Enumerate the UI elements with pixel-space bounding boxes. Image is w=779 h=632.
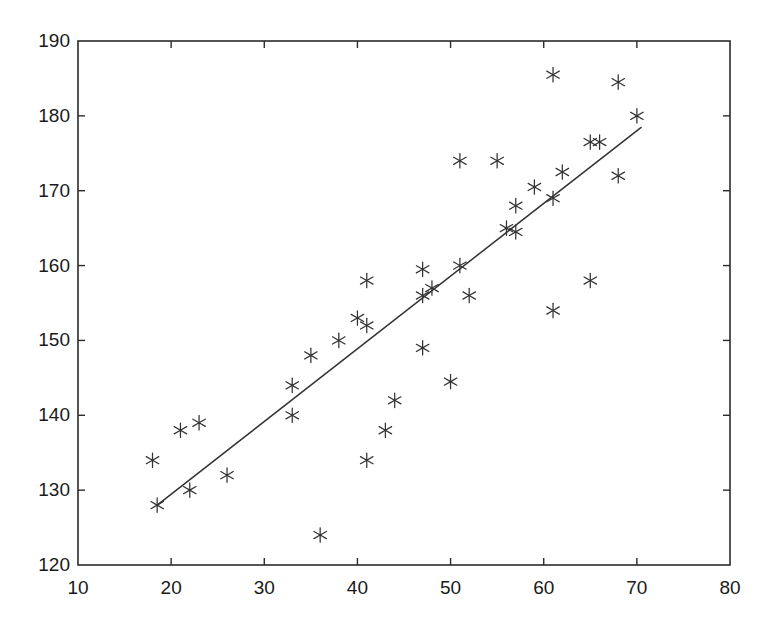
asterisk-marker-ray: [339, 340, 345, 344]
asterisk-marker-ray: [286, 382, 292, 386]
asterisk-marker-ray: [516, 206, 522, 210]
asterisk-marker-ray: [151, 502, 157, 506]
scatter-point: [379, 423, 391, 437]
asterisk-marker-ray: [460, 161, 466, 165]
scatter-point: [510, 198, 522, 212]
asterisk-marker-ray: [379, 430, 385, 434]
scatter-point: [612, 75, 624, 89]
x-axis-tick-label: 70: [626, 577, 647, 599]
asterisk-marker-ray: [333, 337, 339, 341]
scatter-point: [184, 483, 196, 497]
scatter-point: [361, 453, 373, 467]
asterisk-marker-ray: [361, 325, 367, 329]
asterisk-marker-ray: [320, 531, 326, 535]
asterisk-marker-ray: [333, 340, 339, 344]
asterisk-marker-ray: [553, 71, 559, 75]
x-axis-tick-label: 80: [719, 577, 740, 599]
asterisk-marker-ray: [491, 157, 497, 161]
asterisk-marker-ray: [292, 382, 298, 386]
asterisk-marker-ray: [292, 412, 298, 416]
asterisk-marker-ray: [590, 281, 596, 285]
scatter-point: [547, 67, 559, 81]
scatter-point: [361, 273, 373, 287]
plot-canvas: [0, 0, 779, 632]
y-axis-tick-label: 150: [12, 329, 70, 351]
asterisk-marker-ray: [367, 277, 373, 281]
asterisk-marker-ray: [199, 423, 205, 427]
scatter-series-observations: [146, 67, 643, 542]
scatter-point: [556, 165, 568, 179]
asterisk-marker-ray: [562, 172, 568, 176]
asterisk-marker-ray: [286, 385, 292, 389]
scatter-point: [631, 109, 643, 123]
asterisk-marker-ray: [637, 112, 643, 116]
asterisk-marker-ray: [395, 397, 401, 401]
asterisk-marker-ray: [510, 232, 516, 236]
asterisk-marker-ray: [491, 161, 497, 165]
asterisk-marker-ray: [416, 292, 422, 296]
asterisk-marker-ray: [584, 277, 590, 281]
asterisk-marker-ray: [516, 202, 522, 206]
asterisk-marker-ray: [444, 378, 450, 382]
asterisk-marker-ray: [444, 382, 450, 386]
asterisk-marker-ray: [454, 262, 460, 266]
scatter-plot-figure: 1201301401501601701801901020304050607080: [0, 0, 779, 632]
asterisk-marker-ray: [451, 382, 457, 386]
x-axis-tick-label: 50: [440, 577, 461, 599]
scatter-point: [491, 154, 503, 168]
plot-box-border: [78, 41, 730, 565]
asterisk-marker-ray: [534, 183, 540, 187]
asterisk-marker-ray: [367, 325, 373, 329]
asterisk-marker-ray: [292, 415, 298, 419]
scatter-point: [286, 378, 298, 392]
asterisk-marker-ray: [385, 427, 391, 431]
asterisk-marker-ray: [153, 457, 159, 461]
asterisk-marker-ray: [320, 535, 326, 539]
asterisk-marker-ray: [463, 296, 469, 300]
asterisk-marker-ray: [227, 475, 233, 479]
asterisk-marker-ray: [600, 142, 606, 146]
scatter-point: [193, 416, 205, 430]
scatter-point: [388, 393, 400, 407]
y-axis-tick-label: 120: [12, 554, 70, 576]
asterisk-marker-ray: [174, 427, 180, 431]
regression-line: [157, 127, 641, 505]
asterisk-marker-ray: [600, 138, 606, 142]
asterisk-marker-ray: [463, 292, 469, 296]
asterisk-marker-ray: [151, 505, 157, 509]
asterisk-marker-ray: [553, 310, 559, 314]
asterisk-marker-ray: [190, 487, 196, 491]
asterisk-marker-ray: [618, 172, 624, 176]
x-axis-tick-label: 30: [254, 577, 275, 599]
y-axis-tick-label: 130: [12, 479, 70, 501]
x-axis-tick-label: 20: [161, 577, 182, 599]
scatter-point: [286, 408, 298, 422]
asterisk-marker-ray: [180, 427, 186, 431]
asterisk-marker-ray: [612, 82, 618, 86]
asterisk-marker-ray: [584, 281, 590, 285]
asterisk-marker-ray: [193, 423, 199, 427]
y-axis-tick-label: 160: [12, 255, 70, 277]
asterisk-marker-ray: [451, 378, 457, 382]
asterisk-marker-ray: [361, 277, 367, 281]
asterisk-marker-ray: [416, 344, 422, 348]
asterisk-marker-ray: [416, 269, 422, 273]
asterisk-marker-ray: [562, 168, 568, 172]
asterisk-marker-ray: [379, 427, 385, 431]
asterisk-marker-ray: [590, 277, 596, 281]
asterisk-marker-ray: [180, 430, 186, 434]
scatter-point: [584, 135, 596, 149]
y-axis-tick-label: 190: [12, 30, 70, 52]
asterisk-marker-ray: [516, 232, 522, 236]
scatter-point: [584, 273, 596, 287]
asterisk-marker-ray: [553, 198, 559, 202]
scatter-point: [528, 180, 540, 194]
scatter-point: [146, 453, 158, 467]
asterisk-marker-ray: [631, 116, 637, 120]
asterisk-marker-ray: [305, 352, 311, 356]
asterisk-marker-ray: [584, 142, 590, 146]
asterisk-marker-ray: [292, 385, 298, 389]
asterisk-marker-ray: [174, 430, 180, 434]
asterisk-marker-ray: [500, 225, 506, 229]
asterisk-marker-ray: [367, 281, 373, 285]
